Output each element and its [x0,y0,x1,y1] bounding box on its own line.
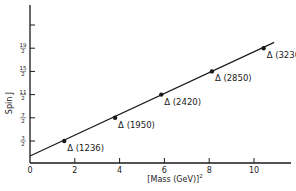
point-label: Δ (1950) [118,120,155,130]
x-tick-label: 0 [27,166,32,175]
y-tick-label: 32 [20,135,26,147]
point-label: Δ (3230) [267,50,296,60]
point-marker [113,116,117,120]
data-point: Δ (1950) [113,116,155,130]
svg-text:2: 2 [21,118,25,124]
y-tick-label: 112 [20,89,27,101]
regge-trajectory-chart: 0246810 3272112152192 Δ (1236)Δ (1950)Δ … [0,0,296,191]
data-point: Δ (3230) [261,46,296,60]
svg-text:2: 2 [21,141,25,147]
point-marker [261,46,265,50]
x-tick-label: 10 [249,166,259,175]
data-point: Δ (2420) [159,92,201,106]
x-tick-label: 8 [207,166,212,175]
svg-text:2: 2 [21,71,25,77]
y-tick-label: 152 [20,65,27,77]
y-ticks: 3272112152192 [20,25,36,147]
y-tick-label: 192 [20,42,27,54]
point-marker [62,139,66,143]
data-point: Δ (2850) [210,69,252,83]
x-ticks: 0246810 [27,158,259,175]
y-axis-label: Spin J [5,92,14,114]
point-label: Δ (1236) [67,143,104,153]
y-tick-label: 72 [20,112,26,124]
x-tick-label: 2 [72,166,77,175]
x-axis-label: [Mass (GeV)]2 [147,173,202,184]
x-tick-label: 6 [162,166,167,175]
data-points: Δ (1236)Δ (1950)Δ (2420)Δ (2850)Δ (3230) [62,46,296,153]
point-label: Δ (2420) [164,97,201,107]
x-tick-label: 4 [117,166,122,175]
point-marker [210,69,214,73]
svg-text:2: 2 [21,48,25,54]
svg-text:2: 2 [21,95,25,101]
point-label: Δ (2850) [215,73,252,83]
axes [30,5,291,163]
point-marker [159,92,163,96]
fit-line [30,42,274,156]
data-point: Δ (1236) [62,139,104,153]
